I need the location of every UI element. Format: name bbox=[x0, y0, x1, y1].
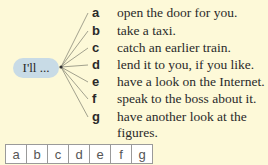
answer-cell-e[interactable]: e bbox=[90, 145, 111, 164]
answer-cell-f[interactable]: f bbox=[111, 145, 132, 164]
item-letter: c bbox=[92, 40, 104, 56]
answer-cell-c[interactable]: c bbox=[48, 145, 69, 164]
answer-cell-d[interactable]: d bbox=[69, 145, 90, 164]
item-text: have a look on the Internet. bbox=[117, 74, 267, 90]
answer-cell-g[interactable]: g bbox=[132, 145, 153, 164]
item-letter: f bbox=[92, 91, 104, 107]
item-text: open the door for you. bbox=[117, 5, 267, 21]
item-text: take a taxi. bbox=[117, 23, 267, 39]
item-text: lend it to you, if you like. bbox=[117, 57, 267, 73]
item-letter: e bbox=[92, 74, 104, 90]
sentence-stem: I'll ... bbox=[13, 58, 59, 78]
answer-cell-a[interactable]: a bbox=[6, 145, 27, 164]
answer-grid: a b c d e f g bbox=[5, 144, 153, 164]
item-text: catch an earlier train. bbox=[117, 40, 267, 56]
item-letter: a bbox=[92, 5, 104, 21]
item-letter: b bbox=[92, 23, 104, 39]
item-letter: g bbox=[92, 109, 104, 125]
item-text-continued: figures. bbox=[117, 125, 267, 141]
item-text: speak to the boss about it. bbox=[117, 91, 267, 107]
item-text: have another look at the bbox=[117, 109, 267, 125]
item-letter: d bbox=[92, 57, 104, 73]
answer-cell-b[interactable]: b bbox=[27, 145, 48, 164]
